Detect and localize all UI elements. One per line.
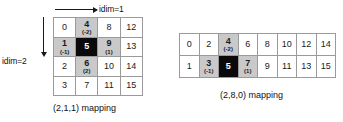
cell-value: 15 bbox=[321, 62, 331, 71]
right_grid-cell: 13 bbox=[297, 56, 317, 78]
left_grid-cell: 5 bbox=[76, 38, 98, 58]
left_grid-cell: 10 bbox=[98, 57, 120, 77]
arrow-right-icon bbox=[55, 9, 97, 10]
cell-offset: (-1) bbox=[60, 49, 69, 55]
cell-value: 7 bbox=[245, 59, 250, 68]
cell-value: 13 bbox=[301, 62, 311, 71]
cell-value: 5 bbox=[226, 62, 231, 71]
right_grid-cell: 12 bbox=[297, 34, 317, 56]
left_grid-cell: 3 bbox=[54, 77, 76, 97]
right_grid-cell: 11 bbox=[278, 56, 298, 78]
cell-value: 3 bbox=[206, 59, 211, 68]
cell-value: 10 bbox=[282, 40, 292, 49]
left_grid-cell: 6(2) bbox=[76, 57, 98, 77]
cell-value: 0 bbox=[62, 23, 67, 32]
left_grid-cell: 9(1) bbox=[98, 38, 120, 58]
cell-value: 6 bbox=[84, 59, 89, 68]
cell-value: 9 bbox=[265, 62, 270, 71]
grid-right-2x8: 024(-2)6810121413(-1)57(1)9111315 bbox=[179, 33, 336, 78]
cell-value: 7 bbox=[84, 81, 89, 90]
axis-label-idim1: idim=1 bbox=[99, 4, 124, 14]
cell-offset: (-2) bbox=[224, 46, 233, 52]
cell-value: 1 bbox=[62, 39, 67, 48]
cell-value: 4 bbox=[84, 20, 89, 29]
left_grid-cell: 14 bbox=[121, 57, 143, 77]
cell-value: 14 bbox=[126, 62, 136, 71]
cell-value: 8 bbox=[265, 40, 270, 49]
cell-value: 10 bbox=[104, 62, 114, 71]
cell-value: 4 bbox=[226, 37, 231, 46]
cell-value: 6 bbox=[245, 40, 250, 49]
cell-value: 8 bbox=[106, 23, 111, 32]
cell-value: 11 bbox=[282, 62, 291, 71]
cell-value: 5 bbox=[84, 42, 89, 51]
left_grid-cell: 1(-1) bbox=[54, 38, 76, 58]
cell-offset: (1) bbox=[244, 68, 251, 74]
cell-value: 12 bbox=[301, 40, 311, 49]
right_grid-cell: 15 bbox=[317, 56, 337, 78]
right_grid-cell: 2 bbox=[200, 34, 220, 56]
caption-left-grid: (2,1,1) mapping bbox=[53, 103, 116, 113]
right_grid-cell: 9 bbox=[258, 56, 278, 78]
cell-value: 12 bbox=[126, 23, 136, 32]
left_grid-cell: 15 bbox=[121, 77, 143, 97]
right_grid-cell: 3(-1) bbox=[200, 56, 220, 78]
right_grid-cell: 4(-2) bbox=[219, 34, 239, 56]
right_grid-cell: 5 bbox=[219, 56, 239, 78]
left_grid-cell: 4(-2) bbox=[76, 18, 98, 38]
cell-offset: (1) bbox=[105, 49, 112, 55]
cell-value: 1 bbox=[187, 62, 192, 71]
left_grid-cell: 0 bbox=[54, 18, 76, 38]
left_grid-cell: 8 bbox=[98, 18, 120, 38]
right_grid-cell: 0 bbox=[180, 34, 200, 56]
right_grid-cell: 6 bbox=[239, 34, 259, 56]
cell-value: 2 bbox=[206, 40, 211, 49]
cell-value: 13 bbox=[126, 42, 136, 51]
cell-offset: (-1) bbox=[204, 68, 213, 74]
arrow-down-icon bbox=[43, 17, 44, 53]
right_grid-cell: 10 bbox=[278, 34, 298, 56]
cell-value: 9 bbox=[106, 39, 111, 48]
cell-value: 14 bbox=[321, 40, 331, 49]
right_grid-cell: 8 bbox=[258, 34, 278, 56]
left_grid-cell: 2 bbox=[54, 57, 76, 77]
right_grid-cell: 7(1) bbox=[239, 56, 259, 78]
cell-value: 3 bbox=[62, 81, 67, 90]
cell-value: 2 bbox=[62, 62, 67, 71]
cell-value: 15 bbox=[126, 81, 136, 90]
cell-value: 11 bbox=[104, 81, 113, 90]
right_grid-cell: 1 bbox=[180, 56, 200, 78]
cell-offset: (-2) bbox=[82, 29, 91, 35]
cell-offset: (2) bbox=[83, 68, 90, 74]
grid-left-4x4: 04(-2)8121(-1)59(1)1326(2)1014371115 bbox=[53, 17, 143, 96]
left_grid-cell: 13 bbox=[121, 38, 143, 58]
left_grid-cell: 11 bbox=[98, 77, 120, 97]
left_grid-cell: 7 bbox=[76, 77, 98, 97]
right_grid-cell: 14 bbox=[317, 34, 337, 56]
cell-value: 0 bbox=[187, 40, 192, 49]
left_grid-cell: 12 bbox=[121, 18, 143, 38]
axis-label-idim2: idim=2 bbox=[2, 56, 27, 66]
caption-right-grid: (2,8,0) mapping bbox=[220, 90, 283, 100]
